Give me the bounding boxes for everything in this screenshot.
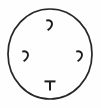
figure-container: Circle with four interior marks ’ ’ ’ ⊤ <box>0 0 101 108</box>
diagram-background <box>0 0 101 108</box>
circle-diagram <box>0 0 101 108</box>
